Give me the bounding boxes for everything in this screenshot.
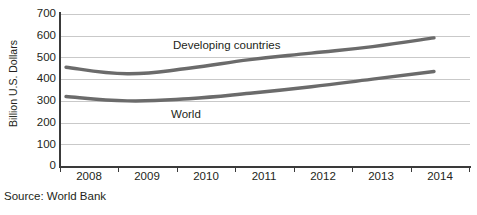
y-axis-title: Billion U.S. Dollars — [8, 19, 19, 149]
x-tick-label: 2014 — [412, 170, 468, 183]
gridline — [60, 14, 470, 15]
x-tick-label: 2013 — [353, 170, 409, 183]
y-tick-label: 500 — [22, 52, 56, 64]
gridline — [60, 79, 470, 80]
plot-area — [60, 14, 470, 166]
gridline — [60, 36, 470, 37]
y-tick-label: 600 — [22, 30, 56, 42]
x-axis-tick — [469, 166, 470, 172]
x-tick-label: 2012 — [295, 170, 351, 183]
x-tick-label: 2009 — [119, 170, 175, 183]
gridline — [60, 144, 470, 145]
x-tick-label: 2011 — [236, 170, 292, 183]
series-label-world: World — [171, 108, 201, 120]
y-tick-label: 0 — [22, 160, 56, 172]
chart-figure: Billion U.S. Dollars 700 600 500 400 300… — [0, 0, 477, 215]
source-note: Source: World Bank — [4, 190, 106, 203]
y-tick-label: 700 — [22, 8, 56, 20]
y-axis-line — [59, 12, 61, 168]
series-label-developing-countries: Developing countries — [173, 39, 280, 51]
x-tick-label: 2010 — [178, 170, 234, 183]
y-tick-label: 300 — [22, 95, 56, 107]
x-tick-label: 2008 — [61, 170, 117, 183]
x-axis-line — [59, 166, 471, 168]
gridline — [60, 57, 470, 58]
y-axis-tick-labels: 700 600 500 400 300 200 100 0 — [18, 0, 56, 215]
y-tick-label: 100 — [22, 139, 56, 151]
gridline — [60, 123, 470, 124]
y-tick-label: 200 — [22, 117, 56, 129]
gridline — [60, 101, 470, 102]
y-tick-label: 400 — [22, 73, 56, 85]
